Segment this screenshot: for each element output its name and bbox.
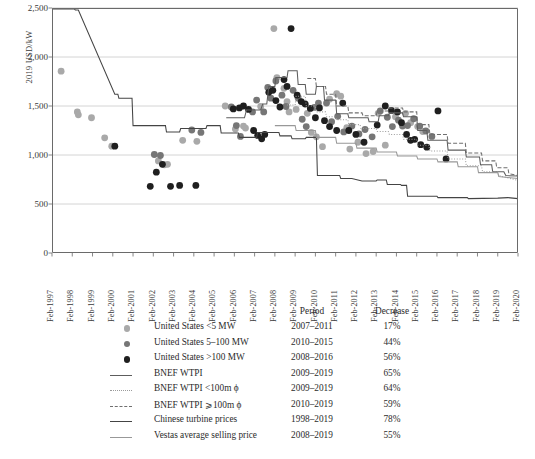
data-point (233, 122, 240, 129)
x-tick-label: Feb-2017 (451, 290, 460, 322)
legend-line-icon (110, 375, 132, 376)
data-point (222, 103, 229, 110)
data-point (345, 127, 352, 134)
data-point (355, 139, 362, 146)
legend-marker-line (108, 382, 150, 398)
data-point (319, 143, 326, 150)
legend-row[interactable]: Vestas average selling price2008–201955% (108, 429, 438, 445)
legend-row[interactable]: United States <5 MW2007–201117% (108, 320, 438, 336)
legend-dot-icon (124, 341, 130, 347)
data-point (369, 133, 376, 140)
data-point (179, 137, 186, 144)
legend-row[interactable]: Chinese turbine prices1998–201978% (108, 413, 438, 429)
data-point (361, 139, 368, 146)
legend-dot-icon (124, 325, 130, 331)
legend-label: BNEF WTPI <100m ϕ (154, 383, 239, 393)
data-point (337, 93, 344, 100)
data-point (269, 87, 276, 94)
data-point (253, 97, 260, 104)
data-point (294, 92, 301, 99)
legend-marker-dot (108, 320, 150, 336)
data-point (157, 152, 164, 159)
y-tick-label: 2,500 (2, 3, 48, 13)
data-point (303, 123, 310, 130)
legend-decrease: 17% (358, 321, 426, 331)
legend-header: Period Decrease (108, 306, 438, 320)
legend-header-period: Period (278, 306, 346, 316)
data-point (176, 182, 183, 189)
legend-label: Chinese turbine prices (154, 414, 237, 424)
legend-row[interactable]: United States 5–100 MW2010–201544% (108, 336, 438, 352)
data-point (389, 123, 396, 130)
data-point (316, 105, 323, 112)
legend-period: 2010–2019 (278, 399, 346, 409)
legend-header-decrease: Decrease (358, 306, 426, 316)
data-point (58, 68, 65, 75)
legend-label: United States >100 MW (154, 352, 245, 362)
data-point (188, 127, 195, 134)
legend-row[interactable]: BNEF WTPI ⩾100m ϕ2010–201959% (108, 398, 438, 414)
data-point (279, 92, 286, 99)
data-point (346, 146, 353, 153)
legend-row[interactable]: BNEF WTPI <100m ϕ2009–201964% (108, 382, 438, 398)
legend-decrease: 64% (358, 383, 426, 393)
data-point (242, 125, 249, 132)
x-tick-label: Feb-2018 (472, 290, 481, 322)
legend-line-icon (110, 437, 132, 438)
x-tick-label: Feb-1999 (87, 290, 96, 322)
data-point (192, 182, 199, 189)
data-point (363, 150, 370, 157)
legend-period: 2007–2011 (278, 321, 346, 331)
legend-marker-line (108, 367, 150, 383)
legend-row[interactable]: BNEF WTPI2009–201965% (108, 367, 438, 383)
y-tick-label: 1,000 (2, 150, 48, 160)
data-point (167, 183, 174, 190)
legend-label: BNEF WTPI ⩾100m ϕ (154, 399, 241, 410)
legend-decrease: 55% (358, 430, 426, 440)
legend-period: 2008–2016 (278, 352, 346, 362)
data-point (362, 126, 369, 133)
data-point (374, 122, 381, 129)
data-point (382, 142, 389, 149)
data-point (394, 108, 401, 115)
data-point (101, 134, 108, 141)
legend-period: 2010–2015 (278, 337, 346, 347)
legend-marker-line (108, 413, 150, 429)
data-point (293, 106, 300, 113)
y-tick-label: 2,000 (2, 52, 48, 62)
legend-label: Vestas average selling price (154, 430, 257, 440)
legend-decrease: 59% (358, 399, 426, 409)
data-point (307, 105, 314, 112)
legend-decrease: 78% (358, 414, 426, 424)
x-tick-label: Feb-2020 (512, 290, 521, 322)
data-point (288, 25, 295, 32)
data-point (284, 83, 291, 90)
data-point (88, 114, 95, 121)
legend-marker-line (108, 398, 150, 414)
data-point (299, 116, 306, 123)
data-point (272, 97, 279, 104)
data-point (435, 108, 442, 115)
data-point (147, 183, 154, 190)
data-point (193, 138, 200, 145)
data-point (198, 129, 205, 136)
data-point (312, 114, 319, 121)
data-point (353, 131, 360, 138)
chart-canvas (52, 8, 518, 253)
series-2 (111, 25, 449, 190)
legend-period: 2009–2019 (278, 368, 346, 378)
data-point (111, 143, 118, 150)
legend-label: United States <5 MW (154, 321, 235, 331)
data-point (277, 104, 284, 111)
series-line (226, 71, 518, 176)
plot-area (52, 8, 518, 253)
legend-dot-icon (124, 356, 130, 362)
data-point (384, 114, 391, 121)
data-point (159, 161, 166, 168)
legend-line-icon (110, 406, 132, 407)
y-tick-label: 1,500 (2, 101, 48, 111)
legend-row[interactable]: United States >100 MW2008–201656% (108, 351, 438, 367)
x-tick-label: Feb-2019 (492, 290, 501, 322)
data-point (237, 133, 244, 140)
x-tick-label: Feb-1998 (66, 290, 75, 322)
